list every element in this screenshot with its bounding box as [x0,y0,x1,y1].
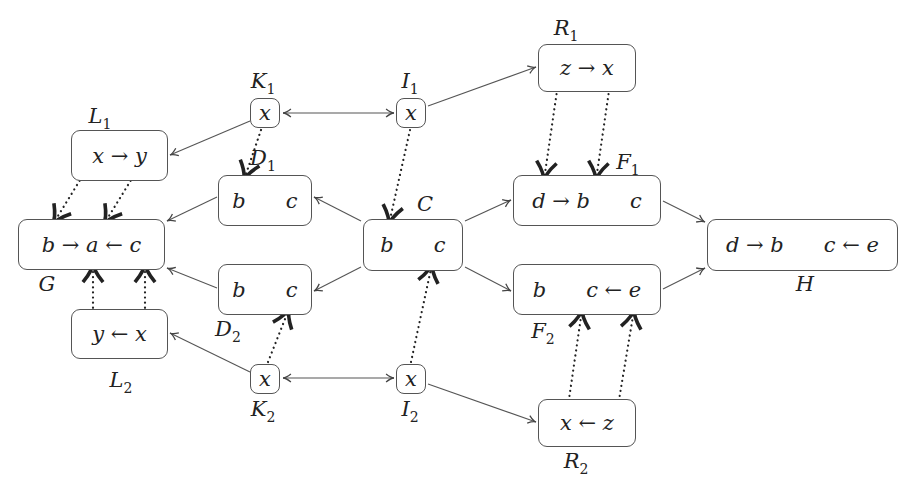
graph-node-R1: z → x [538,44,636,92]
node-content: z → x [539,56,635,80]
diagram-canvas: x → y b → a ← c y ← x b c b c x x x x b … [0,0,917,489]
node-content: b c [364,233,462,257]
node-content: b c [219,278,311,302]
node-content: x [251,367,279,391]
graph-node-I2: x [396,364,426,394]
graph-node-K2: x [250,364,280,394]
edge-C-F2 [465,267,511,291]
edge-C-F1 [465,200,511,221]
node-label-H: H [796,272,814,299]
node-content: b c [219,189,311,213]
node-label-F1: F1 [616,150,640,177]
node-label-R2: R2 [564,449,589,476]
node-label-L1: L1 [89,104,112,131]
edge-I1-R1 [428,67,536,106]
graph-node-F2: b c ← e [513,264,661,315]
node-content: x [397,101,425,125]
graph-node-D2: b c [218,264,312,315]
node-label-R1: R1 [554,16,579,43]
graph-node-K1: x [250,98,280,128]
node-label-C: C [417,192,433,219]
edge-C-D2 [314,267,361,291]
edge-D2-G [167,268,217,288]
node-content: b → a ← c [19,233,164,257]
graph-node-I1: x [396,98,426,128]
graph-node-C: b c [363,219,463,271]
node-label-I2: I2 [401,397,418,424]
edge-F1-H [663,201,705,222]
edge-R2-F2-z [618,310,634,406]
edge-R1-F1-z [544,84,558,180]
node-label-I1: I1 [401,69,418,96]
node-content: x ← z [539,411,635,435]
node-content: x [251,101,279,125]
node-label-K2: K2 [251,397,276,424]
edge-C-D1 [314,197,361,221]
graph-node-L1: x → y [71,130,168,181]
edge-I2-C [411,264,432,362]
graph-node-H: d → b c ← e [707,219,898,271]
node-label-D1: D1 [250,146,276,173]
edge-I1-C [389,130,410,224]
edge-I2-R2 [428,384,536,422]
node-content: b c ← e [514,278,660,302]
node-content: y ← x [72,322,167,346]
node-content: d → b c [514,189,660,213]
node-label-D2: D2 [215,317,241,344]
graph-node-G: b → a ← c [18,219,165,270]
graph-node-F1: d → b c [513,175,661,226]
graph-node-D1: b c [218,175,312,226]
node-content: d → b c ← e [708,233,897,257]
graph-node-R2: x ← z [538,399,636,447]
node-label-K1: K1 [251,69,276,96]
node-label-L2: L2 [110,368,133,395]
edge-R2-F2-x [568,310,582,406]
node-content: x → y [72,144,167,168]
edge-F2-H [663,268,705,289]
node-label-G: G [39,272,56,299]
edge-K1-L1 [170,121,250,155]
node-content: x [397,367,425,391]
edge-R1-F1-x [596,84,610,180]
node-label-F2: F2 [531,319,555,346]
edge-K2-D2 [268,309,289,362]
edge-D1-G [167,197,217,221]
graph-node-L2: y ← x [71,309,168,359]
